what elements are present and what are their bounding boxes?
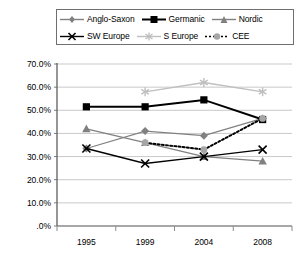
data-point-marker <box>142 139 149 146</box>
legend-label-s-europe: S Europe <box>164 32 199 41</box>
data-point-marker <box>82 125 90 133</box>
triangle-marker-icon <box>211 14 237 25</box>
legend-row-1: Anglo-Saxon Germanic Nor <box>59 11 291 28</box>
asterisk-marker-icon <box>136 31 162 42</box>
legend-item-cee[interactable]: CEE <box>204 31 249 42</box>
y-axis-tick-label: 30.0% <box>27 152 52 162</box>
legend-label-germanic: Germanic <box>169 15 205 24</box>
legend-item-nordic[interactable]: Nordic <box>211 14 263 25</box>
legend-item-s-europe[interactable]: S Europe <box>136 31 199 42</box>
circle-dotted-marker-icon <box>204 31 230 42</box>
cross-marker-icon <box>59 31 85 42</box>
x-axis-tick-label: 2004 <box>194 237 213 247</box>
legend-item-anglo-saxon[interactable]: Anglo-Saxon <box>59 14 135 25</box>
legend-label-nordic: Nordic <box>239 15 263 24</box>
series-line <box>86 149 262 164</box>
legend-label-sw-europe: SW Europe <box>87 32 130 41</box>
series-line <box>86 100 262 120</box>
legend-item-sw-europe[interactable]: SW Europe <box>59 31 130 42</box>
legend-label-anglo-saxon: Anglo-Saxon <box>87 15 135 24</box>
chart-legend: Anglo-Saxon Germanic Nor <box>56 9 294 45</box>
diamond-marker-icon <box>59 14 85 25</box>
x-axis-tick-label: 2008 <box>253 237 272 247</box>
data-point-marker <box>200 96 207 103</box>
legend-row-2: SW Europe S Europe <box>59 28 291 45</box>
y-axis-tick-label: 10.0% <box>27 198 52 208</box>
y-axis-tick-label: 70.0% <box>27 59 52 69</box>
y-axis-tick-label: 40.0% <box>27 128 52 138</box>
data-point-marker <box>142 103 149 110</box>
x-axis-tick-label: 1999 <box>136 237 155 247</box>
y-axis-tick-label: 20.0% <box>27 175 52 185</box>
y-axis-tick-label: .0% <box>36 221 51 231</box>
legend-label-cee: CEE <box>232 32 249 41</box>
square-marker-icon <box>141 14 167 25</box>
data-point-marker <box>83 103 90 110</box>
line-chart: Anglo-Saxon Germanic Nor <box>0 0 300 258</box>
x-axis-tick-label: 1995 <box>77 237 96 247</box>
data-point-marker <box>259 115 266 122</box>
data-point-marker <box>200 146 207 153</box>
legend-item-germanic[interactable]: Germanic <box>141 14 205 25</box>
y-axis-tick-label: 50.0% <box>27 105 52 115</box>
y-axis-tick-label: 60.0% <box>27 82 52 92</box>
